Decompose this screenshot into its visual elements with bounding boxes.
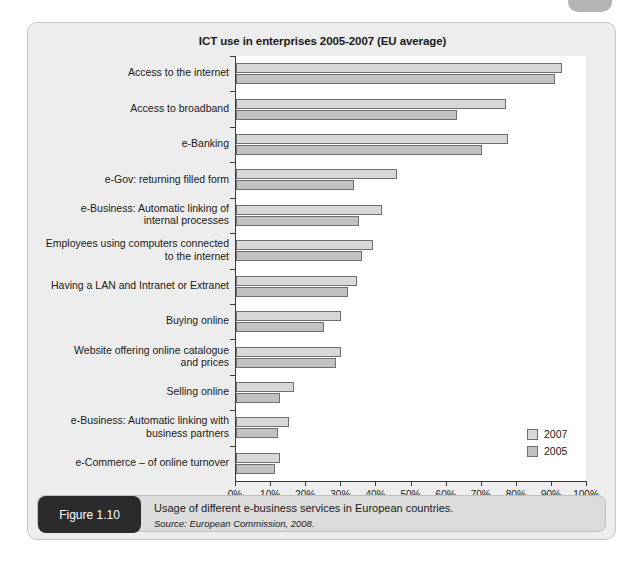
bar-2007-9 <box>236 382 294 392</box>
caption-source: Source: European Commission, 2008. <box>154 517 594 530</box>
x-tick-10% <box>270 481 271 486</box>
bar-2005-10 <box>236 428 278 438</box>
x-tick-30% <box>340 481 341 486</box>
y-tick-6 <box>230 269 235 270</box>
x-tick-50% <box>411 481 412 486</box>
y-tick-7 <box>230 304 235 305</box>
chart-plot-area: 0%10%20%30%40%50%60%70%80%90%100% Access… <box>28 56 617 486</box>
x-tick-100% <box>586 481 587 486</box>
figure-caption-bar: Figure 1.10 Usage of different e-busines… <box>37 495 606 532</box>
bar-2005-4 <box>236 216 359 226</box>
caption-main: Usage of different e-business services i… <box>154 502 594 515</box>
bar-2005-5 <box>236 251 362 261</box>
x-tick-40% <box>375 481 376 486</box>
figure-frame: ICT use in enterprises 2005-2007 (EU ave… <box>27 22 616 540</box>
bar-2007-0 <box>236 63 562 73</box>
x-tick-0% <box>235 481 236 486</box>
bar-2005-6 <box>236 287 348 297</box>
y-tick-9 <box>230 375 235 376</box>
bar-2005-7 <box>236 322 324 332</box>
bar-2007-8 <box>236 347 341 357</box>
x-tick-90% <box>551 481 552 486</box>
category-label-9: Selling online <box>29 385 229 398</box>
category-label-10: e-Business: Automatic linking with busin… <box>29 414 229 439</box>
bar-2007-10 <box>236 417 289 427</box>
figure-number-badge: Figure 1.10 <box>38 496 141 533</box>
y-tick-10 <box>230 410 235 411</box>
figure-caption-text: Usage of different e-business services i… <box>154 502 594 530</box>
legend-label-2005: 2005 <box>544 445 567 457</box>
legend-label-2007: 2007 <box>544 428 567 440</box>
y-tick-11 <box>230 446 235 447</box>
bar-2007-5 <box>236 240 373 250</box>
category-label-3: e-Gov: returning filled form <box>29 173 229 186</box>
bar-2005-8 <box>236 358 336 368</box>
x-tick-80% <box>516 481 517 486</box>
bar-2007-6 <box>236 276 357 286</box>
x-tick-60% <box>446 481 447 486</box>
y-tick-8 <box>230 339 235 340</box>
y-tick-2 <box>230 127 235 128</box>
y-tick-1 <box>230 91 235 92</box>
category-label-4: e-Business: Automatic linking of interna… <box>29 202 229 227</box>
chart-title: ICT use in enterprises 2005-2007 (EU ave… <box>28 35 617 47</box>
category-label-5: Employees using computers connected to t… <box>29 237 229 262</box>
x-tick-70% <box>481 481 482 486</box>
bar-2007-3 <box>236 169 397 179</box>
bar-2007-4 <box>236 205 382 215</box>
category-label-7: Buying online <box>29 314 229 327</box>
category-label-1: Access to broadband <box>29 102 229 115</box>
page-tab-pill <box>568 0 612 12</box>
chart-legend: 2007 2005 <box>527 428 567 462</box>
bar-2005-3 <box>236 180 354 190</box>
y-tick-5 <box>230 233 235 234</box>
legend-swatch-2007 <box>527 429 538 440</box>
bar-2005-11 <box>236 464 275 474</box>
bar-2007-11 <box>236 453 280 463</box>
bar-2005-2 <box>236 145 482 155</box>
bar-2007-2 <box>236 134 508 144</box>
category-label-11: e-Commerce – of online turnover <box>29 456 229 469</box>
legend-swatch-2005 <box>527 446 538 457</box>
category-label-8: Website offering online catalogue and pr… <box>29 344 229 369</box>
y-tick-0 <box>230 56 235 57</box>
x-tick-20% <box>305 481 306 486</box>
category-label-2: e-Banking <box>29 137 229 150</box>
bar-2005-1 <box>236 110 457 120</box>
legend-item-2007: 2007 <box>527 428 567 440</box>
bar-2005-0 <box>236 74 555 84</box>
bar-2005-9 <box>236 393 280 403</box>
y-tick-3 <box>230 162 235 163</box>
y-tick-4 <box>230 198 235 199</box>
bar-2007-7 <box>236 311 341 321</box>
category-label-0: Access to the internet <box>29 66 229 79</box>
legend-item-2005: 2005 <box>527 445 567 457</box>
bar-2007-1 <box>236 99 506 109</box>
category-label-6: Having a LAN and Intranet or Extranet <box>29 279 229 292</box>
